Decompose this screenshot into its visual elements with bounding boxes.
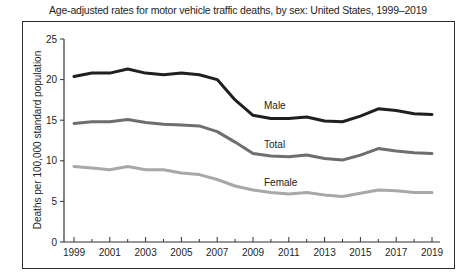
- x-tick-label: 1999: [63, 247, 86, 258]
- x-tick-label: 2005: [170, 247, 193, 258]
- series-label-total: Total: [264, 139, 285, 150]
- axes: 0510152025199920012003200520072009201120…: [46, 34, 444, 259]
- series-line-female: [74, 167, 432, 197]
- series-label-male: Male: [264, 100, 286, 111]
- series-line-male: [74, 69, 432, 122]
- series-lines: [74, 69, 432, 197]
- y-axis-title: Deaths per 100,000 standard population: [32, 51, 43, 229]
- x-tick-label: 2011: [278, 247, 300, 258]
- x-tick-label: 2013: [313, 247, 336, 258]
- x-tick-label: 2001: [99, 247, 122, 258]
- x-tick-label: 2009: [242, 247, 265, 258]
- y-tick-label: 25: [46, 34, 58, 45]
- y-tick-label: 0: [51, 237, 57, 248]
- x-tick-label: 2015: [349, 247, 372, 258]
- series-label-female: Female: [264, 177, 298, 188]
- x-tick-label: 2003: [134, 247, 157, 258]
- x-tick-label: 2019: [421, 247, 444, 258]
- y-tick-label: 10: [46, 155, 58, 166]
- x-tick-label: 2017: [385, 247, 408, 258]
- x-tick-label: 2007: [206, 247, 229, 258]
- series-line-total: [74, 119, 432, 160]
- y-tick-label: 20: [46, 74, 58, 85]
- y-tick-label: 5: [51, 196, 57, 207]
- line-chart: 0510152025199920012003200520072009201120…: [0, 0, 476, 279]
- y-tick-label: 15: [46, 115, 58, 126]
